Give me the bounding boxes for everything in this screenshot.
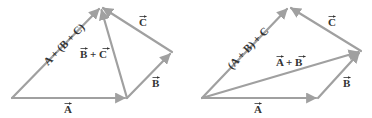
svg-text:(A + B) + C: (A + B) + C <box>225 25 272 73</box>
vector-c <box>291 8 361 51</box>
vector-b <box>318 53 359 98</box>
label-c: C <box>328 16 336 28</box>
label-b: B <box>152 77 160 89</box>
vector-addition-diagram: A B C B + C A + (B + C) A B C A + B (A +… <box>0 0 372 118</box>
right-diagram: A B C A + B (A + B) + C <box>202 8 361 115</box>
vector-b <box>127 54 170 98</box>
label-a: A <box>64 103 72 115</box>
label-a-plus-b: A + B <box>276 56 303 68</box>
label-b-plus-c: B + C <box>80 48 107 60</box>
vector-c <box>103 8 172 52</box>
label-a: A <box>254 103 262 115</box>
label-c: C <box>139 16 147 28</box>
label-b: B <box>343 77 351 89</box>
label-resultant-left: A + (B + C) <box>41 21 88 69</box>
label-resultant-right: (A + B) + C <box>225 25 272 73</box>
svg-text:A + (B + C): A + (B + C) <box>41 21 88 69</box>
left-diagram: A B C B + C A + (B + C) <box>12 8 172 115</box>
